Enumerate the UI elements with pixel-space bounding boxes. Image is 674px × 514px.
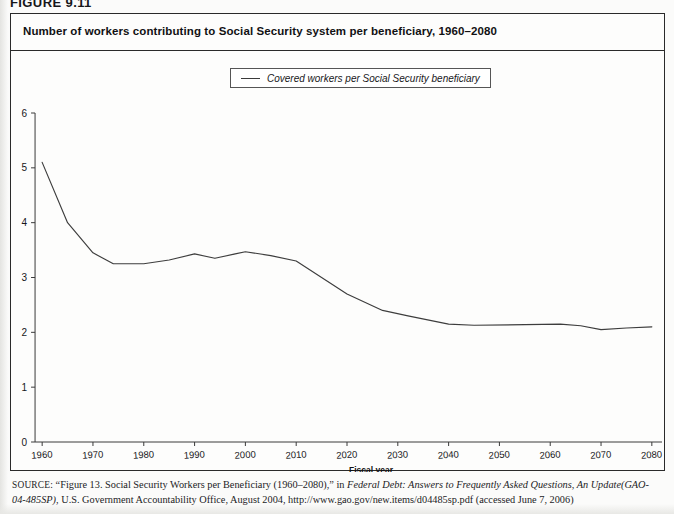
y-tick-label: 1 [21,382,27,393]
page-edge-shadow-left [0,0,8,514]
y-tick-label: 4 [21,217,27,228]
x-tick-label: 2070 [590,448,612,460]
x-tick-label: 2060 [539,448,561,460]
y-tick-label: 5 [21,162,27,173]
x-tick-label: 2010 [285,448,307,460]
x-tick-label: 2080 [641,448,663,460]
source-prefix: SOURCE: [12,480,53,490]
y-tick-label: 2 [21,327,27,338]
x-tick-label: 2050 [488,448,510,460]
figure-number: FIGURE 9.11 [10,0,92,10]
y-tick-label: 3 [21,272,27,283]
source-text-a: “Figure 13. Social Security Workers per … [56,479,348,490]
source-text-b: , U.S. Government Accountability Office,… [56,494,574,505]
x-tick-label: 2020 [336,448,358,460]
source-title-italic: Federal Debt: Answers to Frequently Aske… [347,479,621,490]
source-note: SOURCE: “Figure 13. Social Security Work… [12,478,662,506]
x-tick-label: 2040 [437,448,459,460]
x-axis-title: Fiscal year [349,465,394,472]
x-axis: 1960197019801990200020102020203020402050… [31,442,663,461]
data-series-group [42,162,652,329]
figure-container: Number of workers contributing to Social… [10,13,665,471]
x-tick-label: 1960 [31,448,53,460]
x-tick-label: 1980 [133,448,155,460]
x-tick-label: 2030 [387,448,409,460]
y-axis: 0123456 [21,108,35,448]
x-tick-label: 1990 [183,448,205,460]
x-tick-label: 2000 [234,448,256,460]
plot-area: 0123456 19601970198019902000201020202030… [11,14,666,472]
x-tick-label: 1970 [82,448,104,460]
y-tick-label: 0 [21,437,27,448]
line-chart-svg: 0123456 19601970198019902000201020202030… [11,14,666,472]
y-tick-label: 6 [21,108,27,119]
